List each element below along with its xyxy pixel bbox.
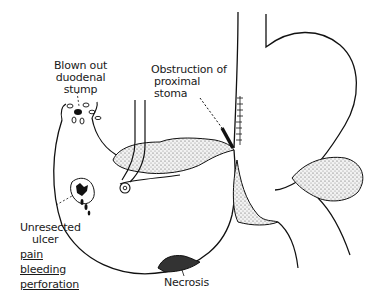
drain-ring-icon (120, 183, 130, 193)
label-duodenal-stump: Blown out duodenal stump (54, 60, 107, 96)
label-ulcer: Unresected ulcer pain bleeding perforati… (20, 222, 81, 291)
stippled-tissue-right (233, 160, 278, 225)
necrosis-patch (158, 256, 200, 273)
stippled-tissue-upper (113, 138, 234, 174)
duodenal-stump-icon (61, 92, 101, 124)
right-descending-line-2 (318, 198, 350, 255)
label-necrosis: Necrosis (164, 277, 209, 289)
jejunal-tube-base (120, 175, 180, 184)
afferent-limb (92, 118, 122, 158)
obstruction-pointer (200, 98, 222, 128)
symptom-pain: pain (20, 249, 81, 261)
ulcer-icon (56, 178, 94, 215)
stippled-lobe-far-right (292, 157, 363, 201)
label-obstruction: Obstruction of proximal stoma (151, 64, 227, 100)
suture-line (236, 96, 243, 145)
symptom-perforation: perforation (20, 279, 81, 291)
right-descending-line-1 (278, 222, 298, 268)
symptom-bleeding: bleeding (20, 264, 81, 276)
